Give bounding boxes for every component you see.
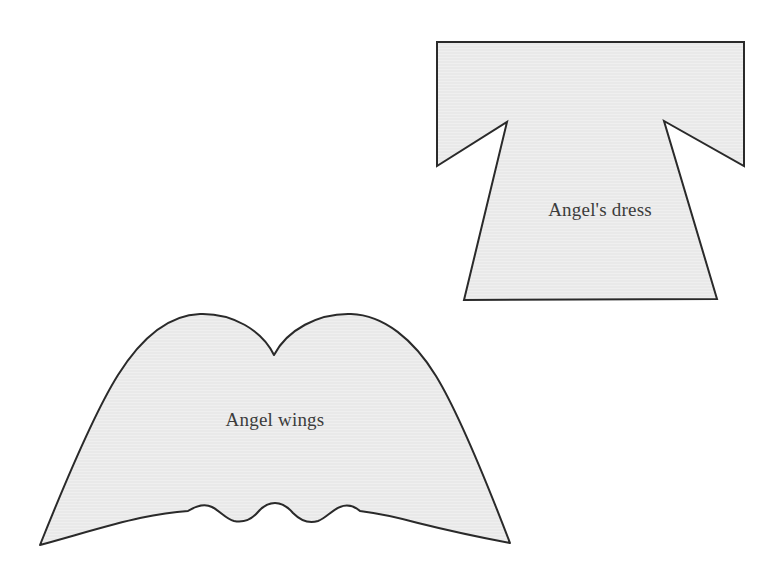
pattern-sheet-page: Angel's dress Angel wings [0, 0, 775, 582]
pattern-sheet-canvas: Angel's dress Angel wings [0, 0, 775, 582]
angel-wings-label: Angel wings [226, 409, 325, 430]
angel-dress-label: Angel's dress [548, 199, 652, 220]
